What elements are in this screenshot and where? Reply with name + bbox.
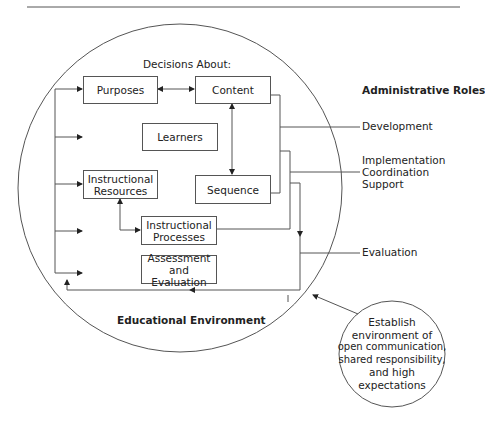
resources-line-1: Instructional [88, 173, 154, 185]
small-circle-text: Establish environment of open communicat… [336, 316, 448, 391]
assessment-line-1: Assessment [148, 252, 211, 264]
processes-line-1: Instructional [146, 219, 212, 231]
learners-label: Learners [157, 131, 203, 143]
assessment-line-2: and Evaluation [142, 264, 216, 288]
instructional-processes-box: Instructional Processes [141, 216, 217, 245]
sequence-label: Sequence [207, 184, 259, 196]
sequence-box: Sequence [195, 175, 271, 204]
coordination-label: Coordination [362, 166, 429, 179]
evaluation-label: Evaluation [362, 246, 417, 259]
development-label: Development [362, 120, 433, 133]
assessment-evaluation-box: Assessment and Evaluation [141, 255, 217, 284]
educational-environment-circle [18, 24, 342, 352]
decisions-about-heading: Decisions About: [143, 58, 231, 71]
purposes-box: Purposes [83, 76, 158, 104]
resources-line-2: Resources [94, 185, 148, 197]
content-box: Content [195, 76, 271, 104]
learners-box: Learners [142, 123, 218, 151]
educational-environment-label: Educational Environment [117, 314, 266, 327]
implementation-label: Implementation [362, 154, 445, 167]
purposes-label: Purposes [97, 84, 145, 96]
instructional-resources-box: Instructional Resources [83, 170, 158, 199]
support-label: Support [362, 178, 404, 191]
administrative-roles-title: Administrative Roles [362, 84, 485, 97]
processes-line-2: Processes [153, 231, 205, 243]
content-label: Content [212, 84, 254, 96]
